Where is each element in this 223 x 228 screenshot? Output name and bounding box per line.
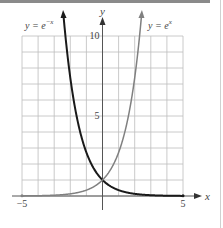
y-tick-label-5: 5: [95, 110, 100, 121]
x-axis-label: x: [204, 190, 210, 202]
y-tick-label-10: 10: [90, 30, 100, 41]
legend-e-x-exponent: x: [168, 18, 173, 26]
axes: [12, 17, 202, 210]
curve-end-dot: [182, 194, 185, 197]
curve-arrow-icon: [138, 10, 144, 18]
legend-e-x: y = ex: [147, 18, 173, 31]
exponential-chart: x y −5 5 5 10 y = e−x y = ex: [0, 0, 223, 228]
legend-e-neg-x-exponent: −x: [46, 18, 55, 26]
curve-e-x: [22, 16, 141, 196]
curve-e-neg-x: [64, 16, 183, 196]
legend-e-x-base: y = e: [147, 20, 169, 31]
x-axis-arrow-icon: [194, 193, 202, 199]
y-axis-label: y: [99, 5, 105, 17]
x-tick-label-max: 5: [181, 198, 186, 209]
y-axis-arrow-icon: [100, 17, 106, 25]
legend-e-neg-x: y = e−x: [24, 18, 54, 31]
curve-arrow-icon: [61, 10, 67, 18]
legend-e-neg-x-base: y = e: [24, 20, 46, 31]
x-tick-label-min: −5: [17, 198, 28, 209]
curve-end-dot: [21, 194, 24, 197]
